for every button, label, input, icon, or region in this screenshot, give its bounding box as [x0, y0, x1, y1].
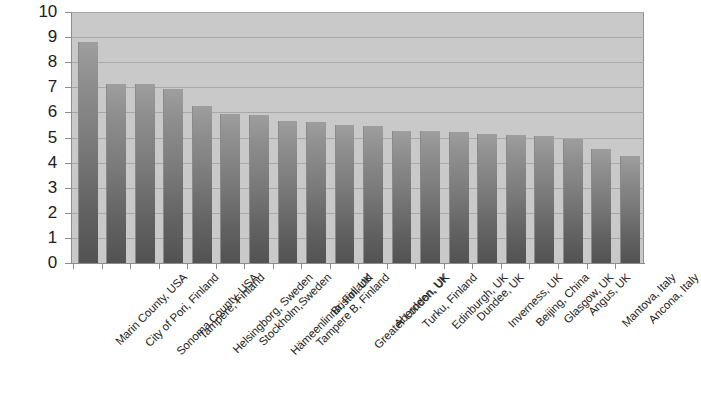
x-axis-tick-mark: [216, 264, 217, 269]
y-axis-tick-label: 2: [48, 204, 57, 221]
x-axis-tick-mark: [330, 264, 331, 269]
x-axis-tick-mark: [501, 264, 502, 269]
x-axis-tick-mark: [358, 264, 359, 269]
y-axis-tick-mark: [65, 62, 71, 63]
bar: [306, 122, 326, 263]
bar: [192, 106, 212, 263]
y-axis-tick-mark: [65, 238, 71, 239]
x-axis-tick-mark: [558, 264, 559, 269]
x-axis-tick-mark: [415, 264, 416, 269]
x-axis-tick-mark: [301, 264, 302, 269]
y-axis-tick-mark: [65, 112, 71, 113]
bar: [249, 115, 269, 263]
bars-group: [72, 12, 644, 263]
bar: [106, 84, 126, 263]
bar: [135, 84, 155, 263]
x-axis-tick-mark: [529, 264, 530, 269]
x-axis-tick-mark: [130, 264, 131, 269]
bar: [420, 131, 440, 263]
y-axis-tick-label: 7: [48, 78, 57, 95]
y-axis-tick-label: 10: [38, 3, 57, 20]
bar: [220, 114, 240, 263]
y-axis-tick-mark: [65, 12, 71, 13]
bar: [163, 89, 183, 263]
y-axis-tick-mark: [65, 188, 71, 189]
bar: [363, 126, 383, 263]
y-axis-tick-mark: [65, 37, 71, 38]
x-axis-tick-mark: [159, 264, 160, 269]
bar: [392, 131, 412, 263]
bar: [449, 132, 469, 263]
bar: [78, 42, 98, 263]
x-axis: Marin County, USACity of Pori, FinlandSo…: [0, 263, 655, 413]
x-axis-tick-mark: [472, 264, 473, 269]
y-axis-tick-label: 5: [48, 129, 57, 146]
x-axis-tick-mark: [444, 264, 445, 269]
bar: [534, 136, 554, 263]
x-axis-tick-mark: [615, 264, 616, 269]
y-axis: 012345678910: [0, 0, 66, 280]
y-axis-tick-mark: [65, 163, 71, 164]
bar: [278, 121, 298, 263]
bar: [335, 125, 355, 263]
x-axis-tick-mark: [273, 264, 274, 269]
y-axis-tick-label: 6: [48, 103, 57, 120]
y-axis-tick-label: 4: [48, 154, 57, 171]
y-axis-tick-label: 3: [48, 179, 57, 196]
x-axis-tick-mark: [387, 264, 388, 269]
bar: [506, 135, 526, 263]
x-axis-tick-mark: [587, 264, 588, 269]
y-axis-tick-mark: [65, 138, 71, 139]
y-axis-tick-mark: [65, 263, 71, 264]
bar: [563, 139, 583, 263]
x-axis-tick-mark: [244, 264, 245, 269]
bar: [591, 149, 611, 263]
y-axis-tick-mark: [65, 213, 71, 214]
bar: [620, 156, 640, 263]
y-axis-tick-label: 9: [48, 28, 57, 45]
y-axis-tick-mark: [65, 87, 71, 88]
bar: [477, 134, 497, 263]
x-axis-tick-mark: [102, 264, 103, 269]
x-axis-tick-mark: [73, 264, 74, 269]
y-axis-tick-label: 1: [48, 229, 57, 246]
x-axis-tick-mark: [187, 264, 188, 269]
y-axis-tick-label: 8: [48, 53, 57, 70]
plot-area: [72, 12, 644, 263]
